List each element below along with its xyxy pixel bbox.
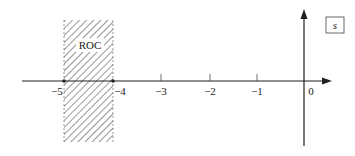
arrow-up-icon	[301, 9, 308, 19]
point-minus-5	[62, 79, 66, 83]
imaginary-axis	[301, 9, 308, 146]
tick-label-minus-1: −1	[251, 85, 263, 97]
roc-label: ROC	[79, 39, 102, 51]
plane-label: s	[333, 19, 337, 31]
point-minus-4	[111, 79, 115, 83]
tick-label-minus-5: −5	[51, 85, 63, 97]
tick-label-minus-3: −3	[155, 85, 167, 97]
tick-label-minus-2: −2	[204, 85, 216, 97]
tick-marks	[161, 74, 257, 81]
tick-label-zero: 0	[308, 85, 314, 97]
tick-label-minus-4: −4	[114, 85, 126, 97]
arrow-right-icon	[322, 78, 332, 85]
s-plane-diagram: ROC −5 −4 −3 −2 −1 0 s	[0, 0, 355, 156]
